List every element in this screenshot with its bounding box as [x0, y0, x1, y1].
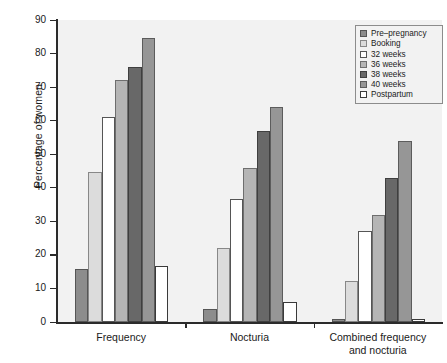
x-group-label-line: Nocturia: [185, 331, 313, 344]
legend-item: 36 weeks: [360, 59, 439, 69]
x-axis-line: [56, 322, 443, 324]
bar: [155, 266, 168, 322]
legend: Pre–pregnancyBooking32 weeks36 weeks38 w…: [355, 25, 443, 104]
x-group-label: Nocturia: [185, 331, 313, 344]
bar: [88, 172, 101, 322]
y-tick-mark: [50, 254, 56, 255]
y-tick-mark: [50, 221, 56, 222]
bar: [142, 38, 155, 322]
bar: [128, 67, 141, 322]
x-tick-mark: [314, 322, 315, 328]
bar: [203, 309, 216, 322]
bar: [345, 281, 358, 322]
y-tick-label: 0: [16, 316, 46, 327]
y-tick-mark: [50, 322, 56, 323]
bar: [75, 269, 88, 322]
legend-label: 36 weeks: [371, 60, 406, 69]
legend-item: Booking: [360, 39, 439, 49]
legend-label: 32 weeks: [371, 50, 406, 59]
bar: [243, 168, 256, 322]
bar: [115, 80, 128, 322]
y-tick-label: 60: [16, 114, 46, 125]
bar: [358, 231, 371, 322]
legend-item: Postpartum: [360, 90, 439, 100]
y-tick-mark: [50, 53, 56, 54]
bar-chart-figure: Percentage of women 0102030405060708090 …: [0, 0, 447, 363]
x-tick-mark: [185, 322, 186, 328]
y-tick-label: 30: [16, 215, 46, 226]
y-tick-label: 10: [16, 282, 46, 293]
bar: [270, 107, 283, 322]
y-axis-line: [56, 19, 58, 323]
bar: [217, 248, 230, 322]
bar: [385, 178, 398, 322]
y-tick-mark: [50, 120, 56, 121]
bar: [257, 131, 270, 322]
legend-item: 32 weeks: [360, 49, 439, 59]
legend-label: 38 weeks: [371, 70, 406, 79]
bar: [230, 199, 243, 322]
x-group-label-line: Combined frequency: [314, 331, 442, 344]
bar: [412, 319, 425, 322]
legend-swatch-icon: [360, 51, 367, 58]
y-tick-label: 50: [16, 148, 46, 159]
legend-swatch-icon: [360, 71, 367, 78]
legend-item: 38 weeks: [360, 69, 439, 79]
bar: [372, 215, 385, 322]
legend-swatch-icon: [360, 81, 367, 88]
legend-swatch-icon: [360, 61, 367, 68]
bar: [102, 117, 115, 322]
y-tick-mark: [50, 154, 56, 155]
x-group-label-line: and nocturia: [314, 344, 442, 357]
y-axis-title: Percentage of women: [32, 36, 44, 236]
legend-label: Postpartum: [371, 90, 413, 99]
legend-swatch-icon: [360, 30, 367, 37]
y-tick-label: 40: [16, 181, 46, 192]
legend-item: Pre–pregnancy: [360, 29, 439, 39]
legend-label: Booking: [371, 39, 401, 48]
y-tick-mark: [50, 20, 56, 21]
y-tick-label: 80: [16, 47, 46, 58]
legend-label: Pre–pregnancy: [371, 29, 427, 38]
bar: [398, 141, 411, 322]
x-group-label: Combined frequencyand nocturia: [314, 331, 442, 356]
x-group-label-line: Frequency: [57, 331, 185, 344]
x-group-label: Frequency: [57, 331, 185, 344]
y-tick-mark: [50, 87, 56, 88]
bar: [283, 302, 296, 322]
legend-item: 40 weeks: [360, 79, 439, 89]
y-tick-label: 20: [16, 248, 46, 259]
bar: [332, 319, 345, 322]
legend-label: 40 weeks: [371, 80, 406, 89]
y-tick-label: 70: [16, 81, 46, 92]
legend-swatch-icon: [360, 40, 367, 47]
legend-swatch-icon: [360, 91, 367, 98]
y-tick-mark: [50, 288, 56, 289]
y-tick-label: 90: [16, 14, 46, 25]
y-tick-mark: [50, 187, 56, 188]
